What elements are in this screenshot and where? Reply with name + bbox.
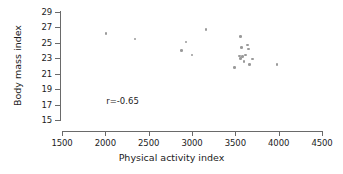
y-axis-tick xyxy=(55,89,61,90)
data-point xyxy=(180,49,183,52)
data-point xyxy=(248,63,251,66)
data-point xyxy=(244,54,247,57)
data-point xyxy=(185,41,188,44)
y-axis-tick xyxy=(55,27,61,28)
y-axis-tick-label: 21 xyxy=(41,70,52,79)
y-axis-label: Body mass index xyxy=(12,6,23,126)
x-axis-tick-label: 3000 xyxy=(172,139,212,148)
data-point xyxy=(105,32,108,35)
x-axis-tick-label: 3500 xyxy=(215,139,255,148)
x-axis-tick xyxy=(279,131,280,136)
y-axis-tick xyxy=(55,12,61,13)
data-point xyxy=(240,46,243,49)
y-axis-tick-label: 15 xyxy=(41,116,52,125)
data-point xyxy=(239,35,242,38)
x-axis-tick xyxy=(62,131,63,136)
x-axis-tick-label: 2500 xyxy=(129,139,169,148)
y-axis-tick xyxy=(55,120,61,121)
y-axis-tick-label: 25 xyxy=(41,39,52,48)
y-axis-tick-label: 27 xyxy=(41,23,52,32)
x-axis-tick xyxy=(105,131,106,136)
x-axis-tick xyxy=(192,131,193,136)
y-axis-tick-label: 23 xyxy=(41,54,52,63)
data-point xyxy=(247,48,250,51)
x-axis-tick-label: 2000 xyxy=(85,139,125,148)
x-axis-tick-label: 4500 xyxy=(302,139,342,148)
plot-area xyxy=(62,12,322,120)
data-point xyxy=(233,66,236,69)
data-point xyxy=(276,63,279,66)
y-axis-tick xyxy=(55,105,61,106)
data-point xyxy=(191,54,194,57)
scatter-plot-figure: 1517192123252729 15002000250030003500400… xyxy=(0,0,343,174)
x-axis-tick-label: 4000 xyxy=(259,139,299,148)
data-point xyxy=(134,38,137,41)
data-point xyxy=(246,44,249,47)
correlation-annotation: r=-0.65 xyxy=(106,96,139,106)
y-axis-tick-label: 19 xyxy=(41,85,52,94)
data-point xyxy=(205,28,208,31)
data-point xyxy=(251,58,254,61)
y-axis-tick xyxy=(55,74,61,75)
y-axis-tick xyxy=(55,58,61,59)
x-axis-tick-label: 1500 xyxy=(42,139,82,148)
data-point xyxy=(243,60,246,63)
y-axis-tick-label: 17 xyxy=(41,101,52,110)
y-axis-tick-label: 29 xyxy=(41,8,52,17)
y-axis-tick xyxy=(55,43,61,44)
x-axis-tick xyxy=(149,131,150,136)
x-axis-tick xyxy=(322,131,323,136)
x-axis-label: Physical activity index xyxy=(0,152,343,163)
x-axis-tick xyxy=(235,131,236,136)
